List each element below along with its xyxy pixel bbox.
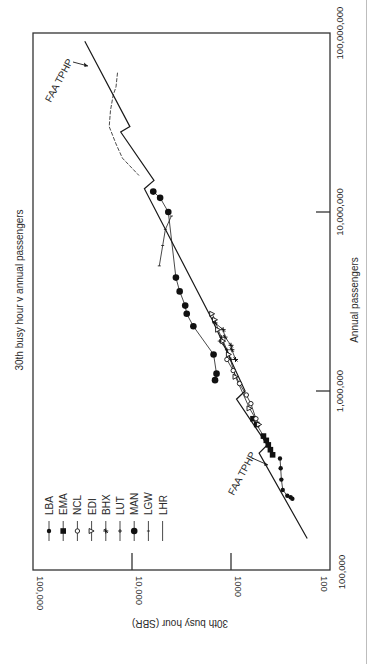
y-axis-label: 30th busy hour (SBR) [132, 618, 228, 629]
annotations: FAA TPHPFAA TPHP [43, 56, 268, 496]
legend-item-edi: EDI [87, 498, 98, 541]
chart-container: 30th busy hour v annual passengers Annua… [0, 0, 369, 664]
star-marker [221, 327, 226, 332]
small-filled-diamond-marker [290, 497, 294, 501]
filled-circle-marker [212, 377, 219, 384]
legend-item-ema: EMA [58, 493, 69, 541]
faa-tphp-annotation: FAA TPHP [226, 449, 258, 496]
plot-frame [33, 33, 330, 570]
x-axis-label: Annual passengers [349, 257, 360, 343]
legend-label: LGW [143, 492, 154, 515]
open-circle-marker [231, 368, 235, 372]
filled-circle-marker [157, 195, 164, 202]
filled-circle-marker [176, 288, 183, 295]
open-circle-marker [237, 381, 241, 385]
chart-plot: 30th busy hour v annual passengers Annua… [0, 0, 369, 664]
small-filled-diamond-marker [281, 488, 285, 492]
filled-square-marker [270, 452, 276, 458]
open-circle-marker [75, 529, 79, 533]
legend-label: EDI [87, 498, 98, 515]
open-circle-marker [254, 417, 258, 421]
y-tick-label: 100 [319, 576, 330, 592]
legend-label: BHX [101, 494, 112, 515]
series-line-faa-tphp [85, 41, 307, 538]
x-tick-label: 10,000,000 [334, 188, 345, 236]
legend-label: NCL [72, 495, 83, 515]
legend-label: EMA [58, 493, 69, 515]
filled-circle-marker [131, 528, 138, 535]
open-circle-marker [244, 393, 248, 397]
filled-square-marker [268, 447, 274, 453]
series-line-man [153, 192, 216, 381]
star-marker [213, 320, 218, 325]
open-circle-marker [225, 357, 229, 361]
legend-item-lba: LBA [44, 496, 55, 541]
filled-circle-marker [173, 274, 180, 281]
open-triangle-marker [257, 422, 262, 427]
small-filled-diamond-marker [279, 477, 283, 481]
legend-label: MAN [129, 493, 140, 515]
filled-circle-marker [165, 209, 172, 216]
filled-square-marker [265, 442, 271, 448]
open-triangle-marker [210, 311, 215, 316]
open-triangle-marker [226, 352, 231, 357]
x-tick-label: 100,000,000 [334, 7, 345, 60]
legend-item-man: MAN [129, 493, 140, 541]
legend: LBAEMANCLEDIBHXLUTMANLGWLHR [44, 492, 169, 541]
filled-circle-marker [213, 370, 220, 377]
arrowhead-icon [84, 63, 88, 68]
legend-item-ncl: NCL [72, 495, 83, 541]
series-lines [85, 41, 307, 538]
series-line-lhr [109, 73, 139, 176]
filled-circle-marker [150, 188, 157, 195]
star-marker [233, 357, 238, 362]
star-marker [103, 529, 108, 534]
filled-circle-marker [210, 351, 217, 358]
star-marker [229, 347, 234, 352]
legend-label: LHR [158, 495, 169, 515]
open-triangle-marker [216, 327, 221, 332]
small-filled-diamond-marker [47, 529, 51, 533]
y-tick-label: 10,000 [134, 576, 145, 605]
legend-item-lhr: LHR [158, 495, 169, 541]
small-filled-diamond-marker [278, 466, 282, 470]
filled-square-marker [60, 528, 66, 534]
legend-label: LUT [115, 496, 126, 515]
open-triangle-marker [247, 406, 252, 411]
star-marker [229, 343, 234, 348]
y-tick-label: 1000 [233, 576, 244, 597]
open-triangle-marker [89, 529, 94, 534]
legend-item-lgw: LGW [143, 492, 154, 541]
filled-circle-marker [182, 302, 189, 309]
legend-item-bhx: BHX [101, 494, 112, 541]
legend-label: LBA [44, 496, 55, 515]
y-tick-label: 100,000 [35, 576, 46, 610]
small-filled-diamond-marker [278, 456, 282, 460]
faa-tphp-annotation: FAA TPHP [43, 56, 75, 103]
axis-ticks: 100,0001,000,00010,000,000100,000,000100… [35, 7, 347, 611]
x-tick-label: 100,000 [336, 555, 347, 589]
open-circle-marker [249, 401, 253, 405]
page-edge [366, 0, 367, 664]
filled-circle-marker [183, 310, 190, 317]
chart-title: 30th busy hour v annual passengers [14, 209, 25, 370]
legend-item-lut: LUT [115, 496, 126, 541]
plus-marker [118, 529, 122, 533]
filled-circle-marker [190, 323, 197, 330]
x-tick-label: 1,000,000 [334, 370, 345, 412]
arrowhead-icon [264, 462, 268, 467]
